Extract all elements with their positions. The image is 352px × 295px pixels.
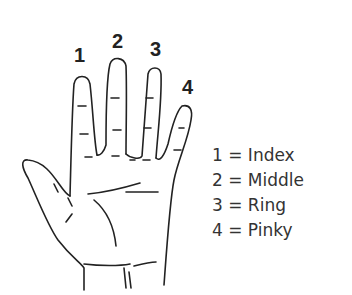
legend-item-index: 1 = Index bbox=[212, 143, 304, 168]
finger-legend: 1 = Index 2 = Middle 3 = Ring 4 = Pinky bbox=[212, 143, 304, 243]
finger-number-index: 1 bbox=[74, 44, 85, 67]
legend-item-ring: 3 = Ring bbox=[212, 193, 304, 218]
finger-number-middle: 2 bbox=[112, 30, 123, 53]
legend-item-pinky: 4 = Pinky bbox=[212, 218, 304, 243]
finger-number-ring: 3 bbox=[150, 38, 161, 61]
legend-item-middle: 2 = Middle bbox=[212, 168, 304, 193]
finger-number-pinky: 4 bbox=[182, 76, 193, 99]
